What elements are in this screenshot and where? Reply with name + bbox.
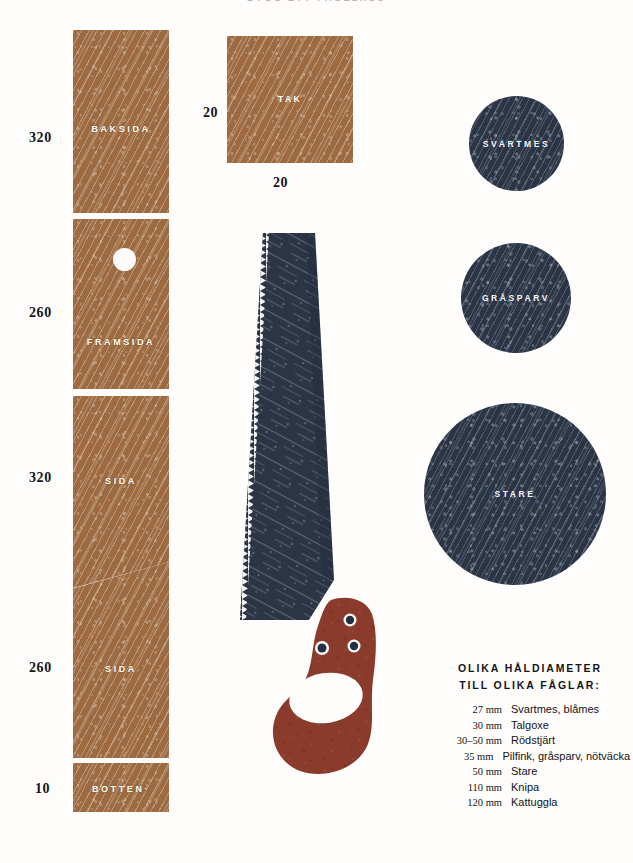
legend-title-line1: OLIKA HÅLDIAMETER bbox=[430, 660, 630, 677]
plank-piece-label: BOTTEN· bbox=[73, 784, 169, 794]
bird-circle-label: SVARTMES bbox=[469, 139, 564, 149]
plank-dimension: 320 bbox=[29, 130, 52, 146]
legend-row: 50 mm Stare bbox=[430, 765, 630, 777]
plank-piece-label: FRAMSIDA bbox=[73, 337, 169, 347]
legend-birds: Rödstjärt bbox=[511, 734, 555, 746]
saw-handle bbox=[273, 598, 376, 774]
legend-row: 35 mm Pilfink, gråsparv, nötväcka bbox=[430, 750, 630, 762]
plank-dimension: 260 bbox=[29, 305, 52, 321]
hole-diameter-legend: OLIKA HÅLDIAMETER TILL OLIKA FÅGLAR: 27 … bbox=[430, 660, 630, 812]
legend-rows: 27 mm Svartmes, blåmes 30 mm Talgoxe 30–… bbox=[430, 703, 630, 808]
legend-title-line2: TILL OLIKA FÅGLAR: bbox=[430, 677, 630, 694]
plank-piece-sida-upper: SIDA bbox=[73, 396, 169, 588]
legend-size: 110 mm bbox=[430, 782, 511, 793]
plank-dimension: 320 bbox=[29, 470, 52, 486]
legend-birds: Svartmes, blåmes bbox=[511, 703, 599, 715]
legend-birds: Kattuggla bbox=[511, 796, 557, 808]
plank-piece-label: SIDA bbox=[73, 664, 169, 674]
legend-size: 50 mm bbox=[430, 766, 511, 777]
plank-dimension: 260 bbox=[29, 660, 52, 676]
saw-blade bbox=[240, 233, 334, 620]
saw-illustration bbox=[230, 228, 400, 808]
legend-birds: Stare bbox=[511, 765, 537, 777]
plank-dimension: 10 bbox=[35, 781, 50, 797]
roof-dimension-left: 20 bbox=[203, 105, 218, 121]
entrance-hole bbox=[113, 248, 136, 271]
legend-size: 30 mm bbox=[430, 720, 511, 731]
page-title: BYGG ETT FÅGELHUS bbox=[0, 0, 633, 1]
legend-size: 27 mm bbox=[430, 704, 511, 715]
plank-piece-sida-lower: SIDA bbox=[73, 562, 169, 758]
legend-size: 120 mm bbox=[430, 797, 511, 808]
illustration-canvas: BYGG ETT FÅGELHUS BAKSIDA 320 FRAMSIDA 2… bbox=[0, 0, 633, 863]
legend-row: 30–50 mm Rödstjärt bbox=[430, 734, 630, 746]
plank-piece-label: BAKSIDA bbox=[73, 124, 169, 134]
bird-circle-stare: STARE bbox=[424, 403, 606, 585]
bird-circle-svartmes: SVARTMES bbox=[469, 96, 564, 191]
bird-circle-label: STARE bbox=[424, 489, 606, 499]
plank-piece-baksida: BAKSIDA bbox=[73, 30, 169, 213]
plank-piece-botten: BOTTEN· bbox=[73, 763, 169, 812]
legend-size: 30–50 mm bbox=[430, 735, 511, 746]
plank-piece-label: SIDA bbox=[73, 476, 169, 486]
legend-birds: Knipa bbox=[511, 781, 539, 793]
roof-dimension-bottom: 20 bbox=[273, 175, 288, 191]
plank-piece-framsida: FRAMSIDA bbox=[73, 219, 169, 389]
legend-birds: Pilfink, gråsparv, nötväcka bbox=[502, 750, 630, 762]
saw-svg bbox=[230, 228, 400, 808]
bird-circle-grasparv: GRÅSPARV bbox=[461, 243, 571, 353]
roof-label: TAK bbox=[227, 94, 353, 104]
legend-row: 30 mm Talgoxe bbox=[430, 719, 630, 731]
legend-row: 27 mm Svartmes, blåmes bbox=[430, 703, 630, 715]
legend-birds: Talgoxe bbox=[511, 719, 549, 731]
legend-size: 35 mm bbox=[430, 751, 502, 762]
legend-row: 110 mm Knipa bbox=[430, 781, 630, 793]
roof-piece-tak: TAK bbox=[227, 36, 353, 163]
legend-row: 120 mm Kattuggla bbox=[430, 796, 630, 808]
bird-circle-label: GRÅSPARV bbox=[461, 293, 571, 303]
